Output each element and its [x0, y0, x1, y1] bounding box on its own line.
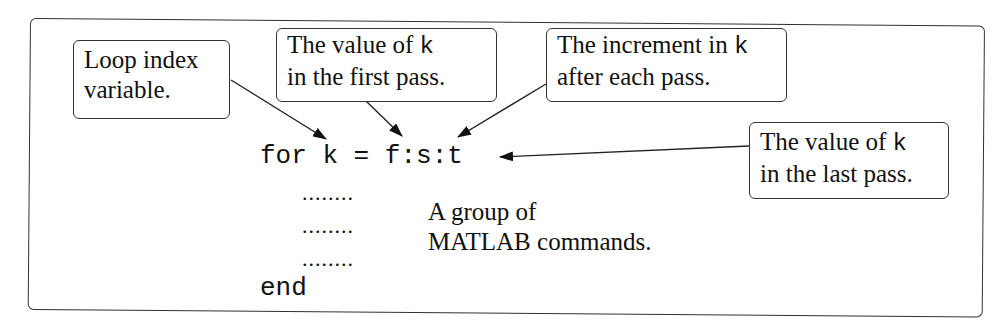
code-end-line: end — [260, 273, 307, 303]
callout-text: The value of — [760, 128, 893, 155]
callout-first-pass: The value of k in the first pass. — [276, 28, 497, 102]
callout-text: The value of — [287, 31, 420, 58]
callout-text: The value of k — [287, 30, 486, 62]
callout-text: The increment in k — [557, 30, 776, 62]
callout-text: The value of k — [760, 127, 938, 159]
callout-text: Loop index — [84, 45, 219, 75]
code-body-dots: ........ — [302, 246, 354, 272]
body-note: A group of MATLAB commands. — [428, 197, 652, 257]
note-text: A group of — [428, 197, 652, 227]
code-body-dots: ........ — [302, 213, 354, 239]
callout-text: in the first pass. — [287, 62, 486, 92]
code-for-line: for k = f:s:t — [260, 141, 463, 171]
variable-k: k — [893, 130, 907, 157]
arrow-last-pass — [500, 146, 749, 157]
arrow-first-pass — [366, 101, 402, 136]
callout-text: The increment in — [557, 31, 734, 58]
variable-k: k — [420, 33, 434, 60]
callout-last-pass: The value of k in the last pass. — [749, 122, 949, 199]
variable-k: k — [734, 33, 748, 60]
code-body-dots: ........ — [302, 180, 354, 206]
note-text: MATLAB commands. — [428, 227, 652, 257]
callout-text: variable. — [84, 75, 219, 105]
callout-text: in the last pass. — [760, 159, 938, 189]
callout-increment: The increment in k after each pass. — [546, 28, 787, 102]
callout-loop-index: Loop index variable. — [73, 40, 230, 119]
callout-text: after each pass. — [557, 62, 776, 92]
